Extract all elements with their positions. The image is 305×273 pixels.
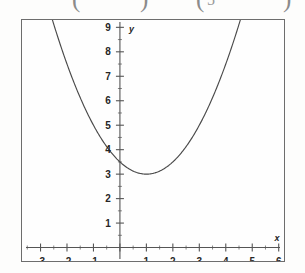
x-tick-labels: -3-2-1123456 xyxy=(36,256,282,261)
svg-text:5: 5 xyxy=(249,256,255,261)
parabola-curve xyxy=(49,20,244,174)
y-axis-label: y xyxy=(128,24,135,34)
x-axis-label: x xyxy=(273,233,280,243)
svg-text:1: 1 xyxy=(144,256,150,261)
y-tick-labels: 123456789 xyxy=(105,22,111,229)
svg-text:-2: -2 xyxy=(63,256,72,261)
digit-fragment: 5 xyxy=(207,0,215,9)
svg-text:3: 3 xyxy=(105,169,111,180)
paren-fragment-1: ( xyxy=(72,0,80,11)
svg-text:6: 6 xyxy=(276,256,282,261)
paren-fragment-3: ( xyxy=(196,0,204,11)
svg-text:-1: -1 xyxy=(89,256,98,261)
svg-text:5: 5 xyxy=(105,120,111,131)
svg-text:6: 6 xyxy=(105,95,111,106)
svg-text:4: 4 xyxy=(105,144,111,155)
svg-text:4: 4 xyxy=(223,256,229,261)
svg-text:2: 2 xyxy=(105,193,111,204)
parabola-plot: -3-2-1123456 123456789 x y xyxy=(22,20,284,261)
svg-text:2: 2 xyxy=(170,256,176,261)
plot-frame: -3-2-1123456 123456789 x y xyxy=(21,19,285,262)
svg-text:7: 7 xyxy=(105,71,111,82)
svg-text:8: 8 xyxy=(105,46,111,57)
paren-fragment-2: ) xyxy=(140,0,148,11)
svg-text:-3: -3 xyxy=(36,256,45,261)
svg-text:1: 1 xyxy=(105,218,111,229)
svg-text:9: 9 xyxy=(105,22,111,33)
paren-fragment-4: ) xyxy=(283,0,291,11)
cropped-expression-fragments: ( ) ( 5 ) xyxy=(0,0,305,17)
svg-text:3: 3 xyxy=(197,256,203,261)
